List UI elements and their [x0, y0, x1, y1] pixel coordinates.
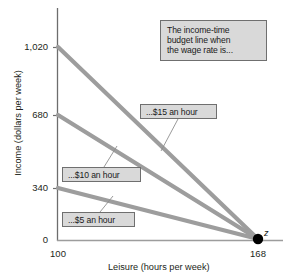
y-tick-label-0: 0: [8, 234, 48, 245]
y-tick-label-1020: 1,020: [8, 41, 48, 52]
x-tick-label-168: 168: [238, 248, 278, 259]
point-z-label: z: [264, 228, 269, 238]
point-z-marker: [253, 234, 263, 244]
y-axis-label: Income (dollars per week): [13, 58, 23, 188]
title-line-3: the wage rate is...: [167, 45, 261, 55]
leader-line-15: [161, 119, 178, 151]
callout-15-an-hour: ...$15 an hour: [140, 104, 217, 119]
title-line-1: The income-time: [167, 25, 261, 35]
chart-figure: Income (dollars per week) Leisure (hours…: [0, 0, 291, 279]
title-line-2: budget line when: [167, 35, 261, 45]
callout-10-an-hour: ...$10 an hour: [62, 167, 141, 182]
budget-line-15: [58, 47, 258, 239]
title-callout-box: The income-time budget line when the wag…: [160, 20, 267, 61]
y-tick-label-340: 340: [8, 182, 48, 193]
x-tick-label-100: 100: [38, 248, 78, 259]
callout-5-an-hour: ...$5 an hour: [62, 212, 135, 227]
x-axis-label: Leisure (hours per week): [108, 262, 278, 272]
y-tick-label-680: 680: [8, 109, 48, 120]
